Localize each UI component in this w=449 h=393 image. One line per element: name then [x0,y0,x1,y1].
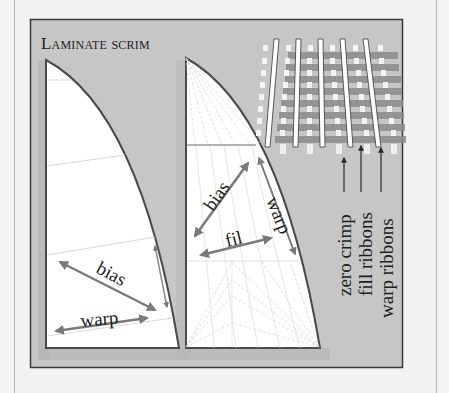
callout-warp-ribbons: warp ribbons [376,218,397,318]
left-warp-label: warp [80,307,120,331]
callout-fill-ribbons: fill ribbons [355,212,376,296]
callout-zero-crimp: zero crimp [334,214,355,296]
diagram-title: Laminate scrim [41,34,150,54]
